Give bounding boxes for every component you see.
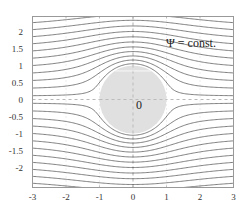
psi-const-annotation: Ψ = const. — [166, 36, 216, 50]
x-tick-label: -3 — [29, 192, 37, 202]
y-tick-label: -0.5 — [9, 112, 24, 122]
y-tick-label: 0.5 — [12, 78, 24, 88]
streamline-chart: -3-2-10123-2-1.5-1-0.500.511.52 Ψ = cons… — [0, 0, 246, 205]
y-tick-label: 0 — [19, 95, 24, 105]
x-tick-label: 1 — [164, 192, 169, 202]
x-tick-label: -2 — [62, 192, 70, 202]
y-tick-label: -2 — [16, 163, 24, 173]
y-tick-label: -1.5 — [9, 146, 24, 156]
x-tick-label: 2 — [198, 192, 203, 202]
x-tick-label: 3 — [231, 192, 236, 202]
y-tick-label: -1 — [16, 129, 24, 139]
y-tick-label: 2 — [19, 27, 24, 37]
x-tick-label: 0 — [131, 192, 136, 202]
x-tick-label: -1 — [96, 192, 104, 202]
cylinder-label: 0 — [136, 98, 142, 112]
y-tick-label: 1 — [19, 61, 24, 71]
y-tick-label: 1.5 — [12, 44, 24, 54]
